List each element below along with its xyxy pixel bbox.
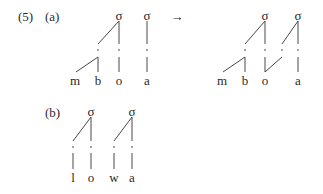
part-b-label: (b)	[45, 106, 60, 119]
segment: o	[88, 171, 95, 184]
segment: l	[71, 171, 75, 184]
segment: b	[242, 74, 249, 87]
syllable-node: σ	[87, 105, 94, 118]
segment: w	[109, 171, 118, 184]
segment: a	[144, 74, 150, 87]
syllable-node: σ	[115, 9, 122, 22]
segment: o	[262, 74, 269, 87]
segment: a	[129, 171, 135, 184]
syllable-node: σ	[128, 105, 135, 118]
segment: a	[295, 74, 301, 87]
example-number: (5)	[18, 10, 33, 23]
syllable-node: σ	[294, 9, 301, 22]
segment: m	[70, 74, 80, 87]
syllable-node: σ	[261, 9, 268, 22]
segment: m	[217, 74, 227, 87]
segment: o	[116, 74, 123, 87]
segment: b	[95, 74, 102, 87]
association-lines	[0, 0, 323, 194]
part-a-label: (a)	[45, 10, 59, 23]
arrow-icon: →	[171, 10, 184, 23]
syllable-node: σ	[143, 9, 150, 22]
